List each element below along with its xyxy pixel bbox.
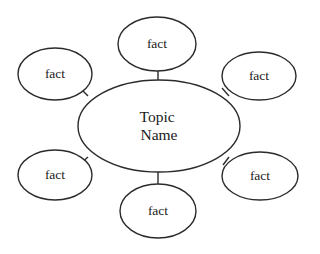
fact-top-label: fact <box>147 36 167 51</box>
center-topic-label-line-1: Topic <box>140 108 175 125</box>
node-fact-lower-left[interactable]: fact <box>18 150 92 200</box>
fact-bottom-label: fact <box>148 203 168 218</box>
concept-web-diagram: factfactfactfactfactfact Topic Name <box>0 0 320 254</box>
center-topic-label: Topic Name <box>140 108 179 143</box>
node-fact-upper-right[interactable]: fact <box>222 52 296 100</box>
node-fact-upper-left[interactable]: fact <box>18 48 92 100</box>
fact-lower-left-label: fact <box>45 167 65 182</box>
concept-web-canvas: factfactfactfactfactfact Topic Name <box>0 0 320 254</box>
fact-upper-right-label: fact <box>249 68 269 83</box>
node-fact-bottom[interactable]: fact <box>120 184 196 238</box>
node-fact-top[interactable]: fact <box>118 17 196 71</box>
fact-lower-right-label: fact <box>250 168 270 183</box>
fact-upper-left-label: fact <box>45 66 65 81</box>
node-fact-lower-right[interactable]: fact <box>222 152 298 200</box>
center-topic-label-line-2: Name <box>140 126 177 143</box>
center-topic-node[interactable]: Topic Name <box>78 80 240 172</box>
